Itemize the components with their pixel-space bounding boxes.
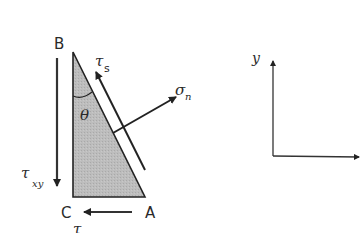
vertex-b-label: B — [54, 35, 64, 53]
tau-s-subscript: s — [104, 62, 110, 75]
tau-bottom-symbol: τ — [73, 220, 82, 233]
sigma-n-arrow-icon — [113, 97, 176, 133]
tau-xy-label: τ — [21, 164, 30, 182]
tau-xy-subscript: xy — [32, 178, 44, 189]
tau-xy-symbol: τ — [21, 164, 30, 182]
vertex-c-label: C — [61, 204, 71, 222]
sigma-n-subscript: n — [185, 91, 191, 102]
y-axis-label: y — [251, 50, 261, 66]
x-axis-arrow-icon — [273, 156, 359, 157]
vertex-a-label: A — [145, 204, 156, 222]
stress-diagram: θ B C A τ xy τ s σ n τ y — [0, 0, 360, 233]
theta-label: θ — [80, 106, 89, 124]
tau-s-symbol: τ — [95, 52, 104, 70]
